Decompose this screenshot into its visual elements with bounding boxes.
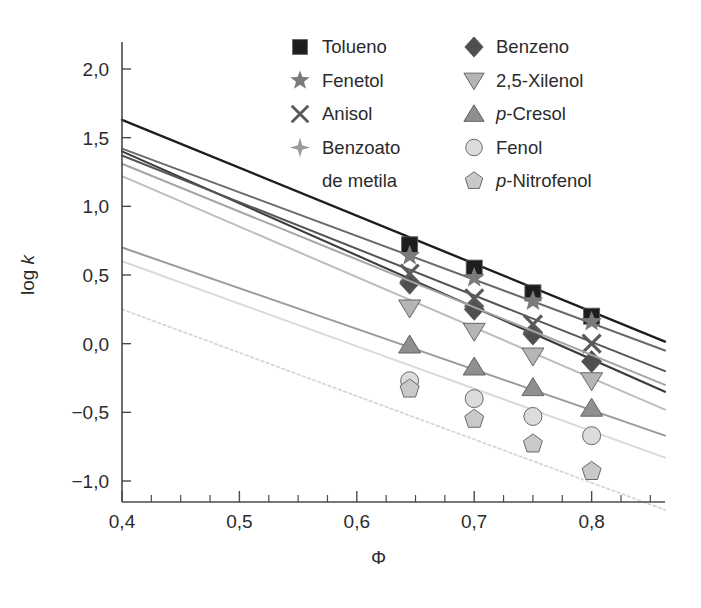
legend-item-label: Anisol — [322, 103, 372, 124]
legend-marker-icon — [465, 172, 482, 189]
y-axis-title: log k — [17, 253, 38, 295]
x-axis-title: Φ — [371, 547, 386, 568]
legend-item[interactable]: Fenol — [466, 137, 543, 158]
svg-text:log k: log k — [17, 253, 38, 295]
legend-item[interactable]: Fenetol — [290, 70, 383, 91]
legend-item[interactable]: 2,5-Xilenol — [464, 70, 584, 91]
x-axis-tick-label: 0,4 — [109, 511, 136, 532]
legend-marker-icon — [464, 73, 484, 90]
y-axis-tick-label: 1,0 — [83, 196, 109, 217]
legend-item[interactable]: Tolueno — [293, 36, 387, 57]
series-trend-line — [122, 164, 665, 385]
data-point-marker — [583, 427, 601, 445]
chart-legend: ToluenoFenetolAnisolBenzoatode metilaBen… — [290, 36, 592, 191]
series-p-cresol — [122, 248, 665, 436]
data-point-marker — [465, 409, 484, 427]
series-trend-line — [122, 248, 665, 436]
legend-item[interactable]: Benzeno — [465, 36, 569, 57]
legend-item-label: Fenol — [496, 137, 542, 158]
legend-item[interactable]: p-Cresol — [464, 103, 566, 124]
legend-item[interactable]: Benzoatode metila — [290, 137, 400, 192]
x-axis-tick-label: 0,6 — [344, 511, 370, 532]
data-point-marker — [463, 323, 485, 341]
legend-item-label: Tolueno — [322, 36, 387, 57]
legend-marker-icon — [290, 70, 309, 88]
data-point-marker — [582, 461, 601, 479]
y-axis-tick-label: 0,0 — [83, 334, 109, 355]
chart-canvas: 2,01,51,00,50,0−0,5−1,00,40,50,60,70,8Φl… — [0, 0, 701, 608]
legend-item-label-continued: de metila — [322, 170, 398, 191]
data-point-marker — [465, 390, 483, 408]
x-axis-tick-label: 0,7 — [461, 511, 487, 532]
legend-item-label: p-Cresol — [495, 103, 566, 124]
series-2-5-xilenol — [122, 176, 665, 409]
y-axis-tick-label: 2,0 — [83, 59, 109, 80]
data-point-marker — [524, 407, 542, 425]
y-axis-tick-label: 1,5 — [83, 128, 109, 149]
legend-marker-icon — [293, 40, 308, 55]
legend-marker-icon — [465, 37, 483, 57]
legend-marker-icon — [290, 137, 310, 157]
legend-item[interactable]: Anisol — [292, 103, 373, 124]
y-axis-tick-label: 0,5 — [83, 265, 109, 286]
x-axis-tick-label: 0,8 — [578, 511, 604, 532]
legend-item-label: Benzeno — [496, 36, 569, 57]
x-axis-tick-label: 0,5 — [226, 511, 252, 532]
legend-item-label: Fenetol — [322, 70, 384, 91]
legend-marker-icon — [292, 106, 309, 123]
data-point-marker — [582, 351, 602, 373]
data-point-marker — [399, 300, 421, 318]
legend-marker-icon — [466, 139, 483, 156]
legend-marker-icon — [464, 105, 484, 122]
data-point-marker — [523, 434, 542, 452]
series-benzoato-de-metila — [122, 164, 665, 385]
legend-item-label: p-Nitrofenol — [495, 170, 592, 191]
y-axis-tick-label: −0,5 — [71, 402, 109, 423]
legend-item-label: Benzoato — [322, 137, 400, 158]
legend-item[interactable]: p-Nitrofenol — [465, 170, 591, 191]
legend-item-label: 2,5-Xilenol — [496, 70, 583, 91]
y-axis-tick-label: −1,0 — [71, 471, 109, 492]
chart-figure: 2,01,51,00,50,0−0,5−1,00,40,50,60,70,8Φl… — [0, 0, 701, 608]
